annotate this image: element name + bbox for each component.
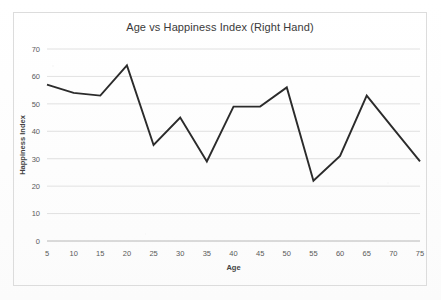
- x-tick-label: 40: [229, 249, 237, 258]
- x-tick-label: 45: [256, 249, 264, 258]
- y-tick-label: 10: [32, 209, 40, 218]
- happiness-index-line: [47, 65, 420, 180]
- x-tick-label: 30: [176, 249, 184, 258]
- x-tick-label: 75: [416, 249, 424, 258]
- y-tick-label: 0: [36, 237, 40, 246]
- x-tick-label: 50: [283, 249, 291, 258]
- x-tick-label: 35: [203, 249, 211, 258]
- y-tick-label: 50: [32, 100, 40, 109]
- line-chart-plot: 010203040506070 510152025303540455055606…: [0, 0, 441, 300]
- y-tick-label: 40: [32, 127, 40, 136]
- x-tick-label: 20: [123, 249, 131, 258]
- y-tick-label: 20: [32, 182, 40, 191]
- x-tick-label: 15: [96, 249, 104, 258]
- x-tick-label: 5: [45, 249, 49, 258]
- x-tick-label: 70: [389, 249, 397, 258]
- y-axis-tick-labels: 010203040506070: [32, 45, 40, 246]
- x-tick-label: 10: [69, 249, 77, 258]
- x-axis-title: Age: [226, 263, 240, 272]
- y-tick-label: 70: [32, 45, 40, 54]
- x-tick-label: 60: [336, 249, 344, 258]
- x-axis-tick-labels: 51015202530354045505560657075: [45, 249, 424, 258]
- y-axis-title: Happiness Index: [18, 114, 27, 174]
- y-tick-label: 60: [32, 72, 40, 81]
- x-tick-label: 65: [363, 249, 371, 258]
- chart-figure: Age vs Happiness Index (Right Hand) 0102…: [0, 0, 441, 300]
- x-tick-label: 25: [149, 249, 157, 258]
- y-tick-label: 30: [32, 155, 40, 164]
- gridline-group: [47, 49, 420, 241]
- x-tick-label: 55: [309, 249, 317, 258]
